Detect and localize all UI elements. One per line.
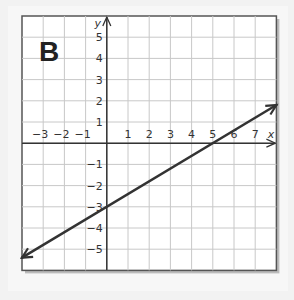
coordinate-graph: −3−2−1123456754321−1−2−3−4−5xyB (0, 0, 294, 300)
y-tick-label: −2 (87, 180, 103, 193)
x-tick-label: −2 (53, 128, 69, 141)
y-tick-label: 2 (96, 95, 103, 108)
y-tick-label: −4 (87, 222, 103, 235)
x-tick-label: 4 (188, 128, 195, 141)
x-tick-label: 1 (125, 128, 132, 141)
y-tick-label: 5 (96, 31, 103, 44)
x-tick-label: 7 (252, 128, 259, 141)
x-tick-label: −3 (32, 128, 48, 141)
x-tick-label: 3 (167, 128, 174, 141)
y-tick-label: −1 (87, 158, 103, 171)
x-tick-label: 2 (146, 128, 153, 141)
y-tick-label: 3 (96, 74, 103, 87)
x-tick-label: −1 (74, 128, 90, 141)
x-tick-label: 5 (209, 128, 216, 141)
y-tick-label: −5 (87, 243, 103, 256)
panel-label: B (39, 36, 59, 67)
y-axis-label: y (94, 17, 102, 30)
y-tick-label: 1 (96, 116, 103, 129)
x-axis-label: x (267, 128, 275, 141)
y-tick-label: 4 (96, 52, 103, 65)
